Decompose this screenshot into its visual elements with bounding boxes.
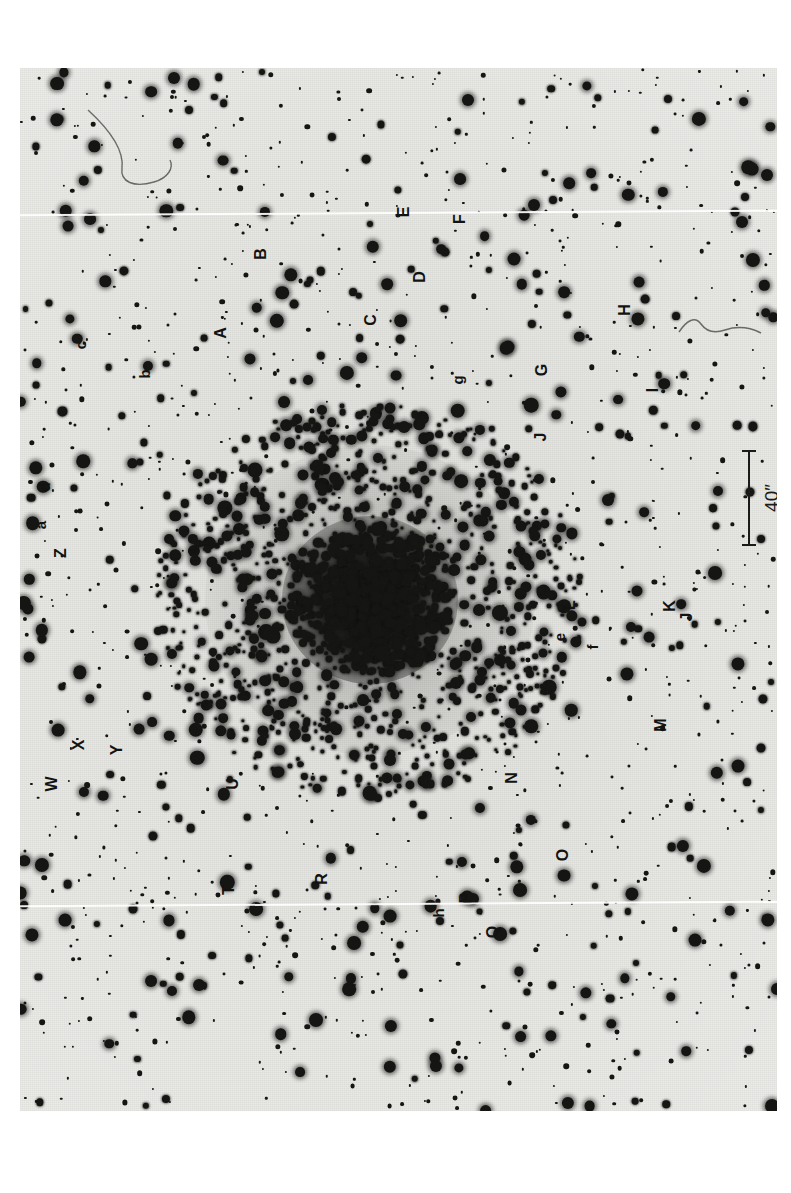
- star-dot: [219, 476, 225, 482]
- star-label-X-22: X: [71, 740, 87, 751]
- star-dot: [521, 582, 532, 593]
- star-dot: [523, 622, 526, 625]
- star-dot: [182, 665, 186, 669]
- star-dot: [361, 637, 370, 646]
- star-dot: [466, 712, 476, 722]
- star-dot: [393, 774, 402, 783]
- star-dot: [461, 431, 467, 437]
- star-dot: [262, 487, 266, 491]
- star-dot: [542, 639, 547, 644]
- star-dot: [507, 661, 516, 670]
- star-dot: [490, 562, 494, 566]
- photographic-plate: EFBDCAHcbgGIJdaZLKJefMXYWUNORTPhQ 40″: [20, 68, 777, 1111]
- star-dot: [257, 695, 260, 698]
- star-dot: [452, 552, 461, 561]
- star-dot: [554, 544, 557, 547]
- star-dot: [207, 522, 211, 526]
- star-dot: [564, 589, 567, 592]
- star-label-J-12: J: [533, 433, 549, 442]
- star-dot: [303, 513, 307, 517]
- star-dot: [286, 562, 289, 565]
- star-dot: [477, 516, 488, 527]
- star-label-Z-15: Z: [53, 548, 69, 558]
- star-dot: [500, 630, 504, 634]
- star-dot: [298, 547, 307, 556]
- star-dot: [356, 452, 361, 457]
- star-dot: [438, 652, 443, 657]
- star-dot: [371, 715, 377, 721]
- star-dot: [372, 438, 377, 443]
- star-dot: [233, 751, 237, 755]
- star-dot: [233, 568, 237, 572]
- star-dot: [166, 608, 169, 611]
- star-dot: [196, 611, 199, 614]
- star-dot: [321, 750, 324, 753]
- star-dot: [182, 630, 185, 633]
- star-dot: [335, 464, 338, 467]
- star-dot: [511, 579, 515, 583]
- star-dot: [376, 648, 387, 659]
- star-dot: [281, 460, 288, 467]
- star-dot: [567, 575, 572, 580]
- star-dot: [243, 737, 249, 743]
- star-dot: [415, 758, 419, 762]
- star-dot: [421, 745, 425, 749]
- star-dot: [316, 646, 324, 654]
- star-dot: [381, 773, 392, 784]
- star-label-C-4: C: [363, 314, 379, 326]
- star-dot: [248, 652, 255, 659]
- star-dot: [240, 464, 248, 472]
- star-dot: [418, 739, 422, 743]
- star-dot: [454, 698, 458, 702]
- star-dot: [270, 725, 275, 730]
- star-dot: [273, 558, 279, 564]
- star-dot: [284, 662, 287, 665]
- star-dot: [215, 725, 226, 736]
- star-dot: [312, 473, 320, 481]
- star-label-b-8: b: [137, 369, 152, 378]
- star-dot: [368, 754, 375, 761]
- star-dot: [426, 780, 435, 789]
- star-dot: [392, 455, 396, 459]
- star-dot: [411, 743, 414, 746]
- star-dot: [463, 762, 467, 766]
- star-dot: [184, 513, 188, 517]
- star-dot: [311, 459, 322, 470]
- star-dot: [321, 518, 324, 521]
- star-dot: [156, 593, 160, 597]
- star-dot: [325, 656, 332, 663]
- star-dot: [307, 562, 317, 572]
- star-dot: [520, 657, 525, 662]
- star-dot: [170, 573, 179, 582]
- star-dot: [249, 634, 259, 644]
- star-dot: [363, 685, 368, 690]
- star-dot: [380, 484, 387, 491]
- star-dot: [448, 564, 460, 576]
- star-dot: [272, 767, 283, 778]
- star-label-K-17: K: [662, 600, 678, 612]
- star-dot: [425, 432, 433, 440]
- star-dot: [516, 545, 521, 550]
- star-dot: [320, 431, 326, 437]
- star-dot: [303, 607, 309, 613]
- star-dot: [287, 582, 294, 589]
- star-dot: [461, 727, 469, 735]
- star-dot: [331, 744, 336, 749]
- star-dot: [394, 789, 398, 793]
- star-dot: [343, 512, 353, 522]
- star-dot: [356, 724, 359, 727]
- star-dot: [259, 502, 269, 512]
- star-dot: [370, 478, 375, 483]
- star-dot: [369, 417, 378, 426]
- star-dot: [252, 680, 257, 685]
- star-dot: [317, 405, 327, 415]
- star-label-I-11: I: [645, 388, 661, 392]
- star-dot: [421, 476, 430, 485]
- star-dot: [310, 596, 319, 605]
- star-dot: [423, 735, 426, 738]
- star-dot: [418, 606, 425, 613]
- star-dot: [543, 674, 546, 677]
- star-dot: [488, 687, 493, 692]
- star-dot: [458, 722, 463, 727]
- finder-chart-figure: EFBDCAHcbgGIJdaZLKJefMXYWUNORTPhQ 40″: [0, 0, 791, 1193]
